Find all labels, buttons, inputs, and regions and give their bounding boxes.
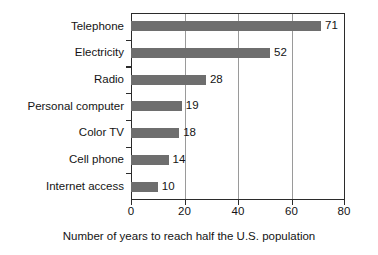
x-tick-label-60: 60 [285, 206, 298, 218]
category-label-personal-computer: Personal computer [27, 93, 124, 120]
category-label-internet-access: Internet access [46, 173, 124, 200]
bar-row: 14 [131, 147, 345, 174]
bar-chart: Telephone Electricity Radio Personal com… [0, 0, 378, 255]
bar-telephone [131, 21, 321, 31]
category-label-electricity: Electricity [75, 40, 124, 67]
x-axis-title: Number of years to reach half the U.S. p… [0, 231, 378, 243]
category-label-color-tv: Color TV [79, 120, 124, 147]
bar-row: 18 [131, 120, 345, 147]
category-label-cell-phone: Cell phone [69, 147, 124, 174]
bar-value-internet-access: 10 [158, 181, 175, 193]
bar-row: 10 [131, 173, 345, 200]
bar-value-cell-phone: 14 [169, 154, 186, 166]
bar-value-personal-computer: 19 [182, 101, 199, 113]
bar-value-electricity: 52 [270, 47, 287, 59]
x-tick-label-80: 80 [338, 206, 351, 218]
bar-personal-computer [131, 101, 182, 111]
category-axis: Telephone Electricity Radio Personal com… [0, 13, 128, 200]
bar-internet-access [131, 182, 158, 192]
bar-value-telephone: 71 [321, 21, 338, 33]
bars-layer: 71 52 28 19 18 14 10 [131, 13, 345, 200]
bar-row: 19 [131, 93, 345, 120]
bar-radio [131, 75, 206, 85]
bar-row: 28 [131, 66, 345, 93]
bar-color-tv [131, 128, 179, 138]
bar-row: 71 [131, 13, 345, 40]
category-label-telephone: Telephone [71, 13, 124, 40]
x-tick-label-40: 40 [232, 206, 245, 218]
bar-cell-phone [131, 155, 169, 165]
bar-row: 52 [131, 40, 345, 67]
bar-value-color-tv: 18 [179, 127, 196, 139]
bar-electricity [131, 48, 270, 58]
bar-value-radio: 28 [206, 74, 223, 86]
x-tick-label-20: 20 [178, 206, 191, 218]
category-label-radio: Radio [94, 66, 124, 93]
x-tick-label-0: 0 [128, 206, 134, 218]
